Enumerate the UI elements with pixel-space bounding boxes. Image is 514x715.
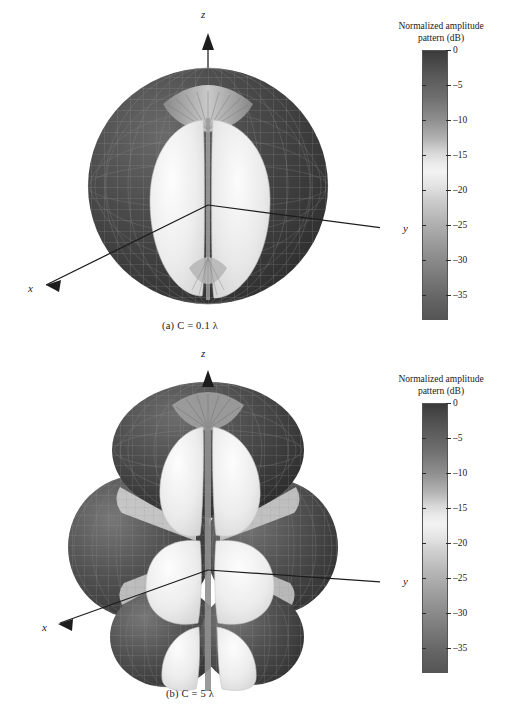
colorbar-tick-a-5: –25: [453, 220, 467, 230]
colorbar-tick-b-6: –30: [453, 608, 467, 618]
colorbar-tick-a-4: –20: [453, 185, 467, 195]
colorbar-tick-b-7: –35: [453, 643, 467, 653]
colorbar-gradient-a: [422, 50, 448, 320]
pattern-b-svg: [0, 355, 380, 695]
colorbar-a: Normalized amplitude pattern (dB) 0 –5 –…: [378, 20, 514, 318]
colorbar-tick-a-1: –5: [453, 80, 463, 90]
axis-z-a: [202, 33, 214, 50]
colorbar-tick-a-2: –10: [453, 115, 467, 125]
colorbar-tick-b-1: –5: [453, 433, 463, 443]
colorbar-tick-b-3: –15: [453, 503, 467, 513]
colorbar-tick-a-3: –15: [453, 150, 467, 160]
colorbar-tick-b-5: –25: [453, 573, 467, 583]
colorbar-b: Normalized amplitude pattern (dB) 0 –5 –…: [378, 373, 514, 671]
colorbar-tick-b-2: –10: [453, 468, 467, 478]
colorbar-tick-a-6: –30: [453, 255, 467, 265]
radiation-pattern-plot-b: z x y: [0, 355, 380, 685]
colorbar-tick-b-4: –20: [453, 538, 467, 548]
colorbar-title-line2: pattern (dB): [382, 32, 500, 44]
colorbar-tick-b-0: 0: [453, 398, 458, 408]
colorbar-tick-a-7: –35: [453, 290, 467, 300]
colorbar-scale-b: 0 –5 –10 –15 –20 –25 –30 –35: [422, 403, 446, 671]
colorbar-tick-a-0: 0: [453, 45, 458, 55]
radiation-pattern-plot-a: z x y: [0, 0, 380, 330]
figure-panel-b: z x y Normalized amplitude pattern (dB) …: [0, 355, 514, 715]
caption-a: (a) C = 0.1 λ: [0, 320, 380, 331]
pattern-a-svg: [0, 0, 380, 330]
axis-label-x-b: x: [42, 621, 47, 633]
colorbar-title-a: Normalized amplitude pattern (dB): [382, 20, 500, 44]
figure-panel-a: z x y Normalized amplitude pattern (dB) …: [0, 0, 514, 348]
axis-z-b: [202, 370, 214, 387]
axis-label-z-a: z: [201, 8, 205, 20]
colorbar-title-line1: Normalized amplitude: [382, 373, 500, 385]
axis-label-z-b: z: [201, 347, 205, 359]
colorbar-title-line2: pattern (dB): [382, 385, 500, 397]
colorbar-title-b: Normalized amplitude pattern (dB): [382, 373, 500, 397]
colorbar-gradient-b: [422, 403, 448, 673]
caption-b: (b) C = 5 λ: [0, 688, 380, 699]
colorbar-scale-a: 0 –5 –10 –15 –20 –25 –30 –35: [422, 50, 446, 318]
colorbar-title-line1: Normalized amplitude: [382, 20, 500, 32]
axis-label-x-a: x: [28, 282, 33, 294]
